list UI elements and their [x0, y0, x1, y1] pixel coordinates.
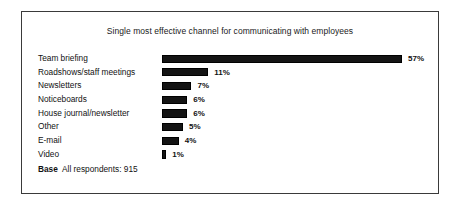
bar-row: Team briefing57%: [22, 52, 438, 66]
bar-category-label: E-mail: [38, 134, 62, 148]
bar-value-label: 5%: [189, 120, 201, 134]
bar-value-label: 7%: [197, 79, 209, 93]
bar-row: Video1%: [22, 148, 438, 162]
bar-track: 5%: [162, 120, 434, 134]
bar-value-label: 6%: [193, 93, 205, 107]
bar: [162, 68, 208, 76]
bar-row: Other5%: [22, 120, 438, 134]
bar: [162, 96, 187, 104]
bar-track: 1%: [162, 148, 434, 162]
bar: [162, 82, 191, 90]
bar-chart-plot-area: Team briefing57%Roadshows/staff meetings…: [22, 52, 438, 154]
bar-value-label: 57%: [408, 52, 424, 66]
bar-category-label: House journal/newsletter: [38, 107, 129, 121]
bar: [162, 137, 179, 145]
chart-frame: Single most effective channel for commun…: [21, 11, 439, 194]
bar-row: Newsletters7%: [22, 79, 438, 93]
bar: [162, 55, 402, 63]
base-note: Base All respondents: 915: [38, 164, 138, 174]
base-keyword: Base: [38, 164, 58, 174]
bar-category-label: Noticeboards: [38, 93, 87, 107]
bar-value-label: 4%: [185, 134, 197, 148]
bar-track: 6%: [162, 93, 434, 107]
bar-value-label: 1%: [172, 148, 184, 162]
bar-category-label: Roadshows/staff meetings: [38, 66, 135, 80]
bar-category-label: Other: [38, 120, 59, 134]
bar-track: 6%: [162, 107, 434, 121]
bar-category-label: Video: [38, 148, 59, 162]
bar-track: 4%: [162, 134, 434, 148]
bar: [162, 109, 187, 117]
bar: [162, 150, 166, 158]
bar-track: 7%: [162, 79, 434, 93]
bar-track: 57%: [162, 52, 434, 66]
bar: [162, 123, 183, 131]
chart-title: Single most effective channel for commun…: [22, 26, 438, 36]
bar-row: Noticeboards6%: [22, 93, 438, 107]
bar-category-label: Team briefing: [38, 52, 88, 66]
bar-category-label: Newsletters: [38, 79, 81, 93]
bar-row: House journal/newsletter6%: [22, 107, 438, 121]
bar-value-label: 11%: [214, 66, 230, 80]
base-respondents: All respondents: 915: [62, 164, 138, 174]
bar-track: 11%: [162, 66, 434, 80]
bar-row: Roadshows/staff meetings11%: [22, 66, 438, 80]
bar-row: E-mail4%: [22, 134, 438, 148]
bar-value-label: 6%: [193, 107, 205, 121]
